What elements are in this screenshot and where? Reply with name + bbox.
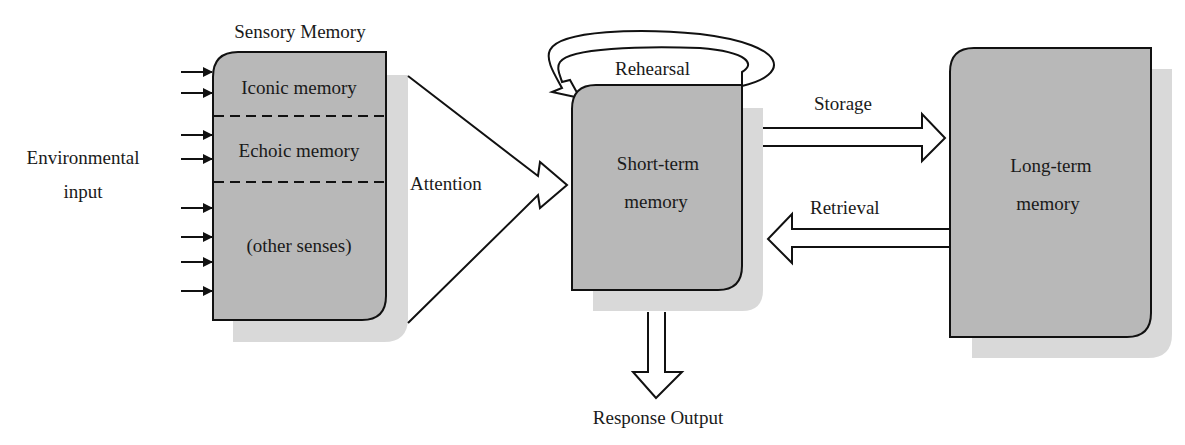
rehearsal-label: Rehearsal [615, 58, 690, 79]
retrieval-arrow: Retrieval [768, 197, 950, 263]
env-label-line1: Environmental [27, 147, 140, 168]
retrieval-label: Retrieval [810, 197, 880, 218]
ltm-label-line1: Long-term [1010, 155, 1091, 176]
response-output-arrow: Response Output [593, 312, 724, 428]
stm-label-line2: memory [624, 191, 688, 212]
attention-label: Attention [410, 173, 482, 194]
short-term-memory-box: Short-term memory [572, 85, 763, 311]
stm-label-line1: Short-term [617, 153, 700, 174]
stm-body [572, 85, 742, 290]
attention-arrow: Attention [408, 76, 567, 323]
memory-model-diagram: Environmental input Sensory Memory Iconi… [0, 0, 1185, 445]
sensory-memory-box: Sensory Memory Iconic memory Echoic memo… [213, 21, 408, 342]
sensory-memory-title: Sensory Memory [234, 21, 366, 42]
iconic-memory-label: Iconic memory [241, 77, 357, 98]
environmental-input-label: Environmental input [27, 147, 140, 202]
other-senses-label: (other senses) [247, 235, 352, 257]
ltm-label-line2: memory [1016, 193, 1080, 214]
storage-label: Storage [814, 93, 872, 114]
input-arrows [181, 72, 212, 291]
response-output-label: Response Output [593, 407, 724, 428]
long-term-memory-box: Long-term memory [950, 48, 1172, 358]
env-label-line2: input [63, 181, 103, 202]
storage-arrow: Storage [763, 93, 945, 161]
echoic-memory-label: Echoic memory [239, 140, 360, 161]
